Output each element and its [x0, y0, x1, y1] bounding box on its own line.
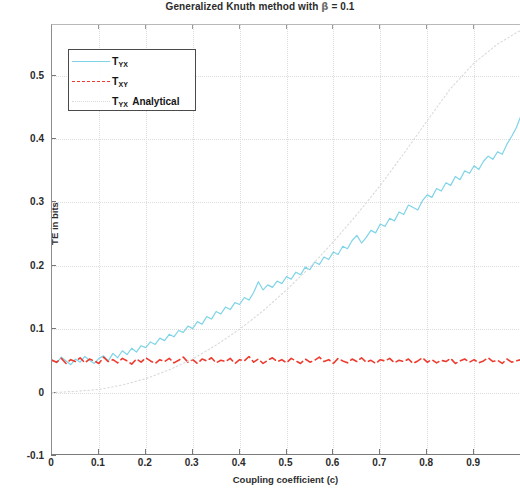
x-axis-label: Coupling coefficient (c): [51, 474, 520, 485]
y-tick-label: 0.2: [0, 259, 44, 270]
series-line-t-yx: [52, 116, 520, 365]
legend-line-sample: [72, 96, 112, 106]
legend-label-tail: Analytical: [132, 97, 179, 107]
x-tick-label: 0.9: [466, 457, 480, 468]
legend-label-subscript: YX: [118, 101, 128, 108]
legend-label: TYXAnalytical: [112, 96, 179, 107]
legend-box: TYXTXYTYXAnalytical: [68, 49, 196, 111]
x-tick-label: 0.6: [325, 457, 339, 468]
legend-item-t-yx-analytical[interactable]: TYXAnalytical: [69, 91, 197, 111]
chart-title-suffix: = 0.1: [329, 1, 355, 12]
y-tick-label: 0.5: [0, 69, 44, 80]
x-tick-label: 0.4: [232, 457, 246, 468]
chart-title: Generalized Knuth method with β = 0.1: [0, 1, 520, 12]
x-tick-label: 0.2: [138, 457, 152, 468]
legend-label: TXY: [112, 76, 128, 87]
y-tick-label: 0: [0, 386, 44, 397]
legend-line-sample: [72, 76, 112, 86]
x-tick-label: 0.3: [185, 457, 199, 468]
legend-label: TYX: [112, 56, 128, 67]
x-tick-label: 0.1: [91, 457, 105, 468]
x-tick-label: 0.8: [419, 457, 433, 468]
figure-canvas: Generalized Knuth method with β = 0.1 TE…: [0, 0, 520, 494]
x-tick-label: 0: [48, 457, 54, 468]
legend-line-sample: [72, 56, 112, 66]
y-tick-label: 0.4: [0, 133, 44, 144]
legend-item-t-xy[interactable]: TXY: [69, 71, 197, 91]
y-tick-label: 0.3: [0, 196, 44, 207]
x-axis-line: [51, 454, 520, 455]
series-line-t-xy: [52, 356, 520, 364]
beta-symbol: β: [321, 1, 328, 12]
legend-label-subscript: YX: [118, 61, 128, 68]
legend-item-t-yx[interactable]: TYX: [69, 51, 197, 71]
chart-title-prefix: Generalized Knuth method with: [166, 1, 322, 12]
legend-label-subscript: XY: [118, 81, 128, 88]
x-tick-label: 0.5: [279, 457, 293, 468]
x-tick-label: 0.7: [372, 457, 386, 468]
y-tick-label: -0.1: [0, 450, 44, 461]
y-tick-label: 0.1: [0, 323, 44, 334]
y-tick-mark: [51, 455, 56, 456]
